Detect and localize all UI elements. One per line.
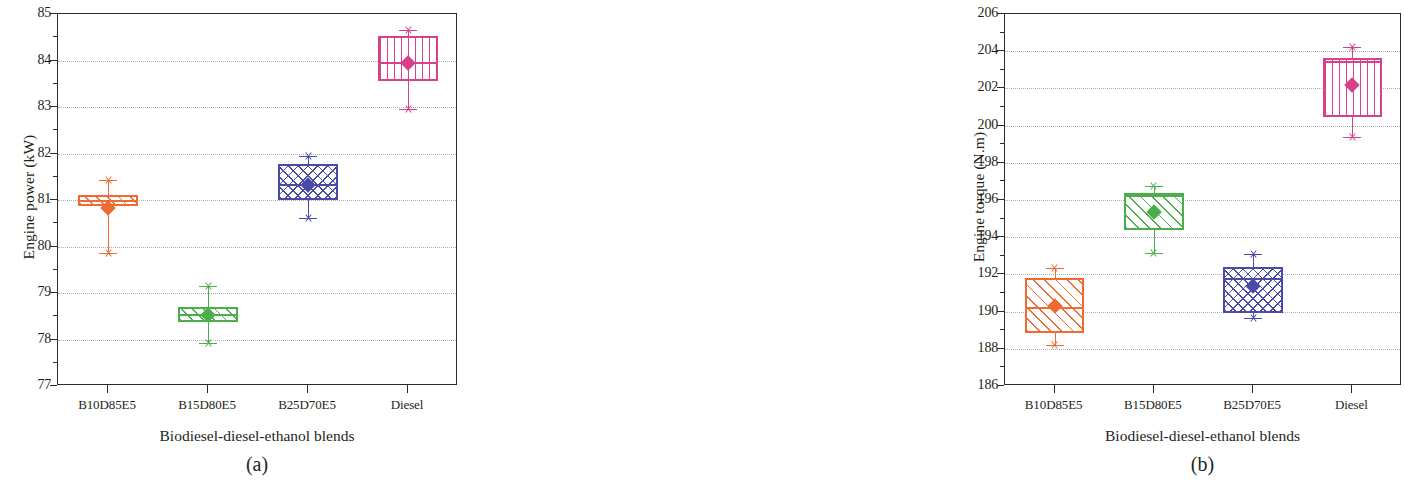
- y-tick-mark: [997, 348, 1004, 349]
- y-tick-label: 81: [11, 192, 51, 206]
- y-tick-mark-minor: [1000, 143, 1005, 144]
- y-tick-mark: [50, 339, 57, 340]
- y-tick-mark-minor: [53, 362, 58, 363]
- y-tick-mark-minor: [1000, 106, 1005, 107]
- y-tick-label: 80: [11, 239, 51, 253]
- y-tick-mark-minor: [1000, 329, 1005, 330]
- y-tick-label: 79: [11, 285, 51, 299]
- y-tick-mark: [997, 311, 1004, 312]
- y-tick-mark: [50, 153, 57, 154]
- y-tick-mark-minor: [53, 176, 58, 177]
- y-tick-mark: [50, 60, 57, 61]
- y-tick-label: 200: [958, 118, 998, 132]
- x-axis-label-b: Biodiesel-diesel-ethanol blends: [944, 427, 1405, 445]
- y-tick-label: 190: [958, 304, 998, 318]
- y-tick-mark: [997, 273, 1004, 274]
- y-tick-mark: [997, 50, 1004, 51]
- y-tick-label: 78: [11, 332, 51, 346]
- y-tick-mark-minor: [1000, 218, 1005, 219]
- panel-a: Engine power (kW) 777879808182838485B10D…: [0, 0, 473, 480]
- panel-b: Engine torque (N.m) 18618819019219419619…: [474, 0, 947, 480]
- y-tick-label: 77: [11, 378, 51, 392]
- x-tick-mark: [1252, 385, 1253, 393]
- y-tick-mark: [50, 13, 57, 14]
- x-tick-mark: [107, 385, 108, 393]
- panel-caption-b: (b): [944, 453, 1405, 476]
- plot-inner-a: [58, 14, 456, 384]
- y-tick-mark-minor: [1000, 32, 1005, 33]
- y-tick-mark-minor: [53, 83, 58, 84]
- y-tick-mark: [50, 199, 57, 200]
- y-tick-mark: [997, 162, 1004, 163]
- x-tick-mark: [307, 385, 308, 393]
- y-tick-mark-minor: [53, 129, 58, 130]
- x-tick-mark: [207, 385, 208, 393]
- y-tick-label: 198: [958, 155, 998, 169]
- y-tick-label: 202: [958, 80, 998, 94]
- y-tick-mark-minor: [1000, 255, 1005, 256]
- y-tick-mark-minor: [1000, 366, 1005, 367]
- y-tick-label: 192: [958, 266, 998, 280]
- y-tick-mark-minor: [53, 269, 58, 270]
- plot-area-a: [57, 13, 457, 385]
- y-tick-mark-minor: [1000, 180, 1005, 181]
- y-tick-mark: [997, 385, 1004, 386]
- y-tick-label: 85: [11, 6, 51, 20]
- y-tick-label: 196: [958, 192, 998, 206]
- y-tick-label: 186: [958, 378, 998, 392]
- median-line: [1323, 61, 1383, 63]
- x-tick-label-b15d80e5: B15D80E5: [1124, 397, 1182, 413]
- y-tick-mark: [50, 246, 57, 247]
- y-tick-mark-minor: [1000, 292, 1005, 293]
- x-tick-label-diesel: Diesel: [391, 397, 424, 413]
- x-tick-mark: [1054, 385, 1055, 393]
- y-tick-label: 206: [958, 6, 998, 20]
- panel-caption-a: (a): [0, 453, 517, 476]
- y-tick-mark: [50, 292, 57, 293]
- y-tick-mark: [50, 385, 57, 386]
- x-tick-mark: [1153, 385, 1154, 393]
- y-tick-mark-minor: [53, 222, 58, 223]
- x-tick-label-diesel: Diesel: [1335, 397, 1368, 413]
- y-tick-label: 194: [958, 229, 998, 243]
- x-tick-label-b15d80e5: B15D80E5: [178, 397, 236, 413]
- plot-inner-b: [1005, 14, 1400, 384]
- y-tick-label: 84: [11, 53, 51, 67]
- box-plot-diesel: [58, 14, 456, 384]
- plot-area-b: [1004, 13, 1401, 385]
- y-tick-mark-minor: [1000, 69, 1005, 70]
- y-tick-mark: [997, 199, 1004, 200]
- y-tick-mark: [997, 236, 1004, 237]
- whisker-x-marker: [1348, 43, 1357, 52]
- whisker-x-marker: [404, 104, 413, 113]
- y-tick-mark: [997, 125, 1004, 126]
- y-tick-label: 188: [958, 341, 998, 355]
- y-tick-mark-minor: [53, 36, 58, 37]
- x-tick-mark: [1351, 385, 1352, 393]
- y-tick-mark: [997, 13, 1004, 14]
- x-axis-label-a: Biodiesel-diesel-ethanol blends: [0, 427, 517, 445]
- whisker-x-marker: [1348, 132, 1357, 141]
- whisker-x-marker: [404, 25, 413, 34]
- x-tick-label-b10d85e5: B10D85E5: [1025, 397, 1083, 413]
- y-tick-label: 82: [11, 146, 51, 160]
- y-tick-mark-minor: [53, 315, 58, 316]
- x-tick-label-b25d70e5: B25D70E5: [278, 397, 336, 413]
- y-tick-mark: [50, 106, 57, 107]
- x-tick-mark: [407, 385, 408, 393]
- y-tick-label: 83: [11, 99, 51, 113]
- x-tick-label-b25d70e5: B25D70E5: [1223, 397, 1281, 413]
- x-tick-label-b10d85e5: B10D85E5: [78, 397, 136, 413]
- y-tick-mark: [997, 87, 1004, 88]
- y-tick-label: 204: [958, 43, 998, 57]
- box-plot-diesel: [1005, 14, 1400, 384]
